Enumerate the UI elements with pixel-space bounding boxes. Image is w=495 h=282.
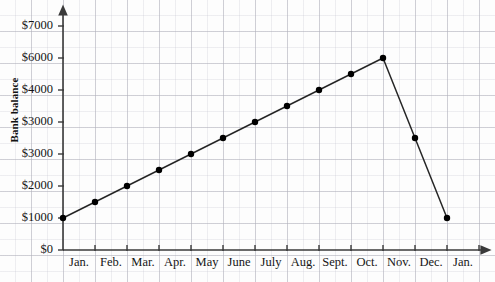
- data-point: [348, 71, 354, 77]
- data-point: [316, 87, 322, 93]
- data-point: [444, 215, 450, 221]
- data-point: [380, 55, 386, 61]
- data-point: [284, 103, 290, 109]
- data-point: [60, 215, 66, 221]
- data-point: [220, 135, 226, 141]
- bank-balance-line-chart: Bank balance $7000$6000$4000$3000$3000$2…: [0, 0, 495, 282]
- data-point: [156, 167, 162, 173]
- plot-area: [0, 0, 495, 282]
- data-point: [188, 151, 194, 157]
- data-point: [124, 183, 130, 189]
- data-line: [63, 58, 447, 218]
- data-point: [252, 119, 258, 125]
- data-point: [412, 135, 418, 141]
- data-point: [92, 199, 98, 205]
